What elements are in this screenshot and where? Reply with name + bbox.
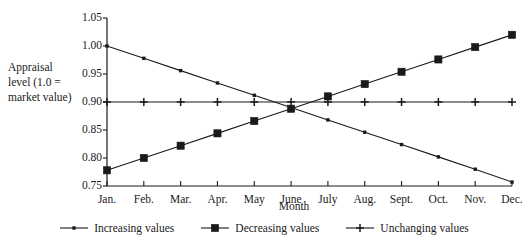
data-point-marker [212,224,219,231]
x-axis-title: Month [0,200,528,212]
legend-item-label: Increasing values [94,222,174,234]
legend-item-label: Unchanging values [380,222,468,234]
legend-item: Decreasing values [200,222,319,234]
chart-figure: Appraisal level (1.0 = market value) 1.0… [0,0,528,247]
legend-item: Unchanging values [345,222,468,234]
legend-marker-filled-square-icon [200,222,230,234]
legend-item: Increasing values [59,222,174,234]
data-point-marker [72,226,75,229]
x-axis-title-text: Month [279,200,310,212]
legend-item-label: Decreasing values [235,222,319,234]
legend-marker-plus-icon [345,222,375,234]
chart-legend: Increasing valuesDecreasing valuesUnchan… [0,222,528,234]
legend-marker-small-dot-icon [59,222,89,234]
